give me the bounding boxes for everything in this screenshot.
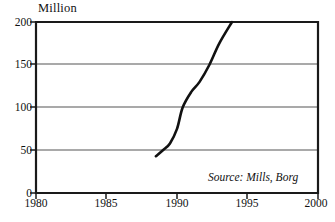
chart-figure: Million 200 150 100 50 0 1980 1985 1990 …	[0, 0, 335, 222]
data-series-line	[156, 22, 232, 156]
plot-area	[0, 0, 335, 222]
gridlines	[36, 64, 318, 150]
